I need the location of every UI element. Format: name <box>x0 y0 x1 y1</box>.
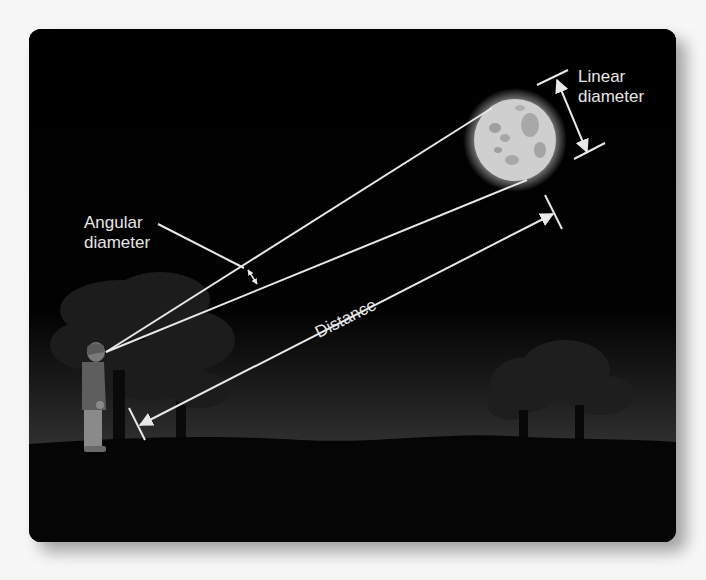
moon-icon <box>463 88 567 192</box>
linear-diameter-label: Linear diameter <box>578 67 644 107</box>
angular-diameter-label: Angular diameter <box>84 213 150 253</box>
ground <box>29 435 676 542</box>
diagram-panel: Angular diameter Linear diameter Distanc… <box>29 29 676 542</box>
